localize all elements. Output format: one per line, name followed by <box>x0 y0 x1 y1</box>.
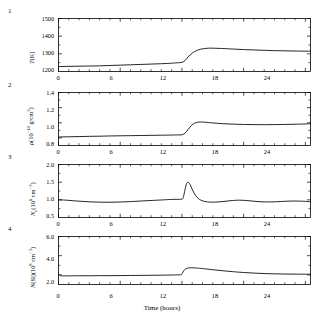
panel-1: 1 T(K) 1500 1400 1300 1200 0 6 12 18 24 <box>0 8 324 80</box>
panel-2-ytick-1p2: 1.2 <box>18 107 54 113</box>
panel-1-chart <box>58 18 311 72</box>
panel-4-xtick-18: 18 <box>205 293 225 299</box>
x-axis-title: Time (hours) <box>0 305 324 312</box>
panel-4-xtick-6: 6 <box>101 293 121 299</box>
panel-4-xtick-0: 0 <box>48 293 68 299</box>
panel-4-ytick-4p0: 4.0 <box>18 256 54 262</box>
panel-4-chart <box>58 236 311 285</box>
figure-container: 1 T(K) 1500 1400 1300 1200 0 6 12 18 24 … <box>0 0 324 312</box>
panel-3-ytick-1p5: 1.5 <box>18 179 54 185</box>
panel-1-xtick-18: 18 <box>205 75 225 81</box>
panel-2-ytick-0p8: 0.8 <box>18 141 54 147</box>
panel-3-chart <box>58 164 311 218</box>
panel-2-chart <box>58 92 311 146</box>
panel-4-xtick-24: 24 <box>257 293 277 299</box>
panel-3-number: 3 <box>8 154 12 161</box>
panel-1-ytick-1300: 1300 <box>18 50 54 56</box>
panel-1-ytick-1500: 1500 <box>18 16 54 22</box>
panel-1-number: 1 <box>8 8 12 15</box>
panel-1-xtick-0: 0 <box>48 75 68 81</box>
panel-3: 3 Ne(106 cm−3) 2.0 1.5 1.0 0.5 0 6 12 18… <box>0 154 324 226</box>
panel-1-xtick-6: 6 <box>101 75 121 81</box>
panel-3-ytick-0p5: 0.5 <box>18 213 54 219</box>
panel-1-ytick-1400: 1400 <box>18 33 54 39</box>
panel-4-number: 4 <box>8 226 12 233</box>
panel-3-ytick-1p0: 1.0 <box>18 196 54 202</box>
panel-2: 2 ρ(10−14 g/cm3) 1.4 1.2 1.0 0.8 0 6 12 … <box>0 82 324 154</box>
panel-3-ytick-2p0: 2.0 <box>18 162 54 168</box>
panel-4-ytick-2p0: 2.0 <box>18 279 54 285</box>
panel-4-xtick-12: 12 <box>153 293 173 299</box>
panel-2-ytick-1p4: 1.4 <box>18 90 54 96</box>
panel-1-xtick-12: 12 <box>153 75 173 81</box>
panel-3-plot-area <box>58 164 311 218</box>
panel-4-plot-area <box>58 236 311 285</box>
panel-4-ytick-6p0: 6.0 <box>18 234 54 240</box>
panel-4: 4 N(Si)(108 cm−3) 6.0 4.0 2.0 0 6 12 18 … <box>0 226 324 312</box>
panel-2-plot-area <box>58 92 311 146</box>
panel-1-ytick-1200: 1200 <box>18 67 54 73</box>
panel-1-xtick-24: 24 <box>257 75 277 81</box>
panel-1-plot-area <box>58 18 311 72</box>
panel-2-ytick-1p0: 1.0 <box>18 124 54 130</box>
panel-2-number: 2 <box>8 82 12 89</box>
